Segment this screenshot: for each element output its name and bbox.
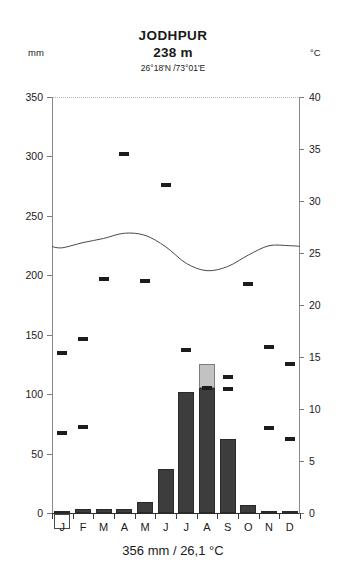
month-tick-3 [114, 513, 115, 519]
month-tick-0 [52, 513, 53, 519]
temp-extreme-mark-may [140, 279, 150, 283]
right-tick-label-5: 5 [309, 455, 315, 467]
month-tick-8 [217, 513, 218, 519]
temp-low-mark-november [264, 426, 274, 430]
left-tick-label-200: 200 [25, 269, 43, 281]
mean-temperature-line [52, 233, 300, 271]
right-tick-label-20: 20 [309, 299, 321, 311]
month-label-october: O [244, 521, 253, 533]
left-tick-label-300: 300 [25, 150, 43, 162]
temp-extreme-mark-june [161, 183, 171, 187]
climate-diagram: JODHPUR 238 m 26°18'N /73°01'E mm °C 350… [0, 0, 346, 581]
month-label-january: J [60, 521, 66, 533]
right-tick-label-0: 0 [309, 507, 315, 519]
month-tick-2 [93, 513, 94, 519]
temp-low-mark-february [78, 425, 88, 429]
right-tick-label-35: 35 [309, 143, 321, 155]
temp-extreme-mark-march [99, 277, 109, 281]
month-tick-4 [135, 513, 136, 519]
month-label-july: J [184, 521, 190, 533]
month-tick-10 [259, 513, 260, 519]
temp-extreme-mark-november [264, 345, 274, 349]
temp-low-mark-december [285, 437, 295, 441]
temp-low-mark-january [57, 431, 67, 435]
temp-extreme-mark-september [223, 375, 233, 379]
left-tick-label-250: 250 [25, 210, 43, 222]
temp-extreme-mark-january [57, 351, 67, 355]
temp-extreme-mark-december [285, 362, 295, 366]
right-tick-label-10: 10 [309, 403, 321, 415]
month-label-november: N [265, 521, 273, 533]
month-tick-1 [73, 513, 74, 519]
station-coordinates: 26°18'N /73°01'E [0, 63, 346, 73]
left-tick-label-100: 100 [25, 388, 43, 400]
month-label-may: M [140, 521, 149, 533]
month-label-december: D [286, 521, 294, 533]
month-tick-9 [238, 513, 239, 519]
temp-extreme-mark-february [78, 337, 88, 341]
month-label-february: F [80, 521, 87, 533]
month-tick-5 [155, 513, 156, 519]
left-tick-label-350: 350 [25, 91, 43, 103]
station-altitude: 238 m [0, 45, 346, 60]
month-label-march: M [99, 521, 108, 533]
month-tick-6 [176, 513, 177, 519]
right-tick-label-15: 15 [309, 351, 321, 363]
page-title: JODHPUR [0, 28, 346, 43]
temperature-curve [52, 97, 300, 513]
right-tick-label-40: 40 [309, 91, 321, 103]
temp-low-mark-september [223, 387, 233, 391]
month-label-september: S [224, 521, 231, 533]
month-label-april: A [121, 521, 128, 533]
plot-area: 350300250200150100500 4035302520151050 J… [52, 97, 300, 513]
right-tick-label-30: 30 [309, 195, 321, 207]
right-tick-label-25: 25 [309, 247, 321, 259]
left-tick-label-150: 150 [25, 329, 43, 341]
month-tick-11 [279, 513, 280, 519]
month-label-august: A [203, 521, 210, 533]
summary-footer: 356 mm / 26,1 °C [0, 543, 346, 558]
right-axis-unit: °C [310, 47, 321, 58]
left-axis-unit: mm [28, 47, 44, 58]
left-tick-label-0: 0 [37, 507, 43, 519]
temp-extreme-mark-april [119, 152, 129, 156]
left-tick-label-50: 50 [31, 448, 43, 460]
month-label-june: J [163, 521, 169, 533]
temp-extreme-mark-august [202, 386, 212, 390]
temp-extreme-mark-july [181, 348, 191, 352]
temp-extreme-mark-october [243, 282, 253, 286]
month-tick-7 [197, 513, 198, 519]
month-tick-12 [300, 513, 301, 519]
